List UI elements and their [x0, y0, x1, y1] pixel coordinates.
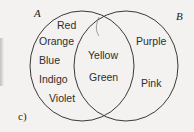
intersection-item-yellow: Yellow — [88, 50, 118, 61]
set-a-item-red: Red — [57, 20, 76, 31]
set-b-item-purple: Purple — [136, 36, 166, 47]
set-b-item-pink: Pink — [141, 78, 161, 89]
set-b-circle — [74, 11, 178, 121]
set-a-item-orange: Orange — [39, 36, 74, 47]
set-b-label: B — [176, 11, 183, 22]
set-a-label: A — [34, 8, 41, 19]
part-label: c) — [18, 111, 27, 122]
venn-diagram-figure: A B Red Orange Blue Indigo Violet Yellow… — [0, 0, 194, 132]
intersection-item-green: Green — [89, 72, 118, 83]
set-a-circle — [30, 11, 134, 121]
scan-edge-artifact — [0, 38, 4, 86]
set-a-item-indigo: Indigo — [39, 74, 68, 85]
set-a-item-blue: Blue — [39, 55, 60, 66]
set-a-item-violet: Violet — [49, 93, 75, 104]
venn-circles-svg — [0, 0, 194, 132]
